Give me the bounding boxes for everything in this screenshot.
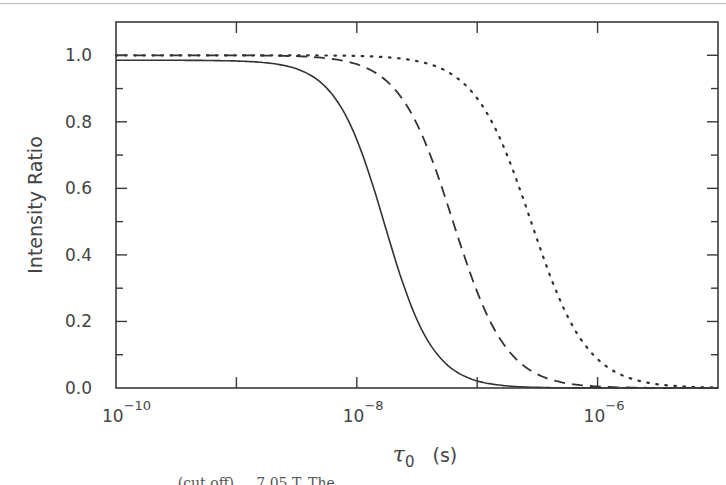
series-dashed-line [116, 55, 718, 388]
y-tick-label: 0.4 [65, 245, 92, 265]
plot-frame [116, 22, 718, 388]
y-tick-label: 1.0 [65, 45, 92, 65]
axes: 0.00.20.40.60.81.010−1010−810−6 [65, 22, 718, 426]
x-axis-subscript: 0 [405, 453, 415, 471]
intensity-ratio-chart: 0.00.20.40.60.81.010−1010−810−6 Intensit… [0, 0, 726, 485]
x-axis-unit: (s) [432, 444, 457, 466]
series-dotted-line [116, 55, 718, 387]
x-tick-label: 10−10 [102, 398, 151, 426]
plot-area [116, 55, 718, 388]
figure-caption-fragment: ... (cut off) ... 7.05 T. The [160, 472, 720, 485]
y-tick-label: 0.0 [65, 378, 92, 398]
x-axis-label: τ0(s) [393, 442, 457, 471]
y-tick-label: 0.2 [65, 311, 92, 331]
y-tick-label: 0.6 [65, 178, 92, 198]
x-tick-label: 10−8 [343, 398, 384, 426]
y-axis-label: Intensity Ratio [24, 136, 46, 274]
x-axis-symbol: τ [393, 442, 406, 467]
y-tick-label: 0.8 [65, 112, 92, 132]
series-solid-line [116, 60, 718, 388]
x-tick-label: 10−6 [584, 398, 625, 426]
